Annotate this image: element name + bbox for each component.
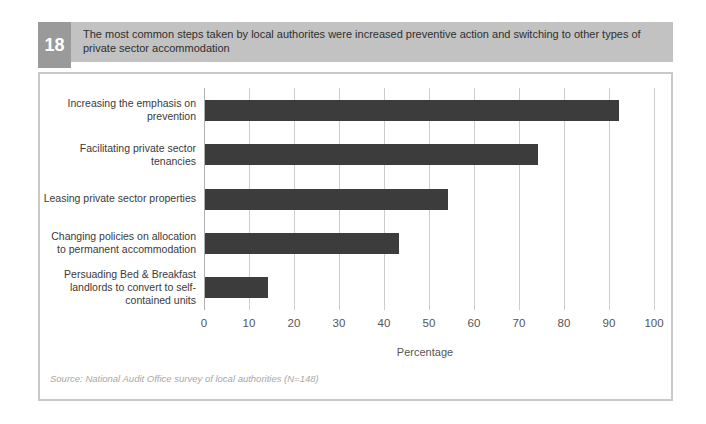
source-note: Source: National Audit Office survey of … (50, 373, 319, 384)
gridline-60 (474, 88, 475, 310)
bar (205, 233, 399, 254)
figure-title-line-1: The most common steps taken by local aut… (83, 27, 663, 41)
gridline-70 (519, 88, 520, 310)
gridline-100 (654, 88, 655, 310)
figure-title-line-2: private sector accommodation (83, 41, 663, 55)
x-tick-label-30: 30 (322, 317, 356, 329)
figure-number: 18 (44, 35, 64, 56)
category-label: Increasing the emphasis on prevention (40, 88, 196, 132)
bar (205, 144, 538, 165)
gridline-80 (564, 88, 565, 310)
x-tick-label-90: 90 (592, 317, 626, 329)
x-tick-label-40: 40 (367, 317, 401, 329)
figure-18: 18 The most common steps taken by local … (38, 22, 673, 401)
bar (205, 277, 268, 298)
x-tick-label-100: 100 (637, 317, 671, 329)
bar (205, 189, 448, 210)
category-label: Facilitating private sector tenancies (40, 132, 196, 176)
figure-title: The most common steps taken by local aut… (83, 27, 663, 55)
x-tick-label-0: 0 (187, 317, 221, 329)
gridline-90 (609, 88, 610, 310)
category-label: Persuading Bed & Breakfast landlords to … (40, 266, 196, 310)
bar (205, 100, 619, 121)
x-tick-label-70: 70 (502, 317, 536, 329)
x-axis-label: Percentage (200, 346, 650, 358)
page: 18 The most common steps taken by local … (0, 0, 706, 424)
x-tick-label-10: 10 (232, 317, 266, 329)
x-tick-label-60: 60 (457, 317, 491, 329)
x-tick-label-50: 50 (412, 317, 446, 329)
x-tick-label-20: 20 (277, 317, 311, 329)
category-label: Leasing private sector properties (40, 177, 196, 221)
category-label: Changing policies on allocation to perma… (40, 221, 196, 265)
figure-number-badge: 18 (38, 22, 71, 68)
x-tick-label-80: 80 (547, 317, 581, 329)
chart-area: Percentage Source: National Audit Office… (38, 72, 673, 401)
